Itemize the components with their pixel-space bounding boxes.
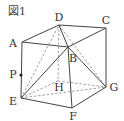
point-label-p: P (9, 69, 16, 80)
point-p-marker (19, 73, 22, 76)
figure-title: 図1 (8, 6, 26, 17)
edge-hg (58, 81, 106, 87)
vertex-label-h: H (54, 82, 64, 93)
vertex-label-c: C (102, 15, 110, 26)
vertex-label-b: B (69, 53, 77, 64)
edge-dg (59, 25, 106, 87)
edge-fg (72, 87, 106, 108)
vertex-label-a: A (9, 38, 17, 49)
visible-edges (21, 25, 106, 108)
vertex-label-f: F (69, 111, 77, 121)
vertex-label-e: E (9, 96, 17, 107)
edge-dh (58, 25, 59, 81)
edge-ad (22, 25, 59, 42)
vertex-label-g: G (110, 82, 119, 93)
edge-ae (21, 42, 22, 98)
edge-ab (22, 42, 68, 47)
vertex-label-d: D (55, 12, 64, 23)
edge-ef (21, 98, 72, 108)
edge-bc (68, 28, 106, 47)
edge-db (59, 25, 68, 47)
edge-dc (59, 25, 106, 28)
